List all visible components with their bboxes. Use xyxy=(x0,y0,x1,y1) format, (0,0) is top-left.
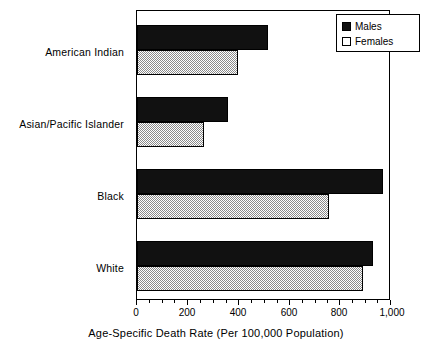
bars-layer xyxy=(137,11,389,299)
xtick-minor-750 xyxy=(327,300,328,303)
xtick-mark-200 xyxy=(187,300,188,305)
legend-item-males: Males xyxy=(342,19,414,34)
legend-label-males: Males xyxy=(355,21,382,32)
xtick-label-200: 200 xyxy=(179,307,196,318)
xtick-label-0: 0 xyxy=(133,307,139,318)
xtick-mark-800 xyxy=(339,300,340,305)
xtick-label-600: 600 xyxy=(281,307,298,318)
bar-females-american-indian xyxy=(137,50,238,75)
bar-females-asian-pacific-islander xyxy=(137,122,204,147)
legend-swatch-males-icon xyxy=(342,22,351,31)
xtick-minor-500 xyxy=(264,300,265,303)
xtick-minor-50 xyxy=(149,300,150,303)
category-label-asian-pacific-islander: Asian/Pacific Islander xyxy=(0,119,124,130)
xtick-mark-1000 xyxy=(390,300,391,305)
bar-females-black xyxy=(137,194,329,219)
bar-males-black xyxy=(137,169,383,194)
xtick-minor-300 xyxy=(213,300,214,303)
category-label-american-indian: American Indian xyxy=(0,47,124,58)
xtick-minor-250 xyxy=(200,300,201,303)
xtick-minor-700 xyxy=(315,300,316,303)
xtick-minor-350 xyxy=(226,300,227,303)
xtick-minor-900 xyxy=(365,300,366,303)
legend-label-females: Females xyxy=(355,36,393,47)
bar-females-white xyxy=(137,266,363,291)
x-axis-title: Age-Specific Death Rate (Per 100,000 Pop… xyxy=(0,327,432,340)
xtick-minor-550 xyxy=(277,300,278,303)
xtick-minor-450 xyxy=(251,300,252,303)
xtick-mark-400 xyxy=(238,300,239,305)
xtick-minor-950 xyxy=(377,300,378,303)
xtick-label-1000: 1,000 xyxy=(379,307,404,318)
xtick-minor-850 xyxy=(352,300,353,303)
xtick-minor-100 xyxy=(162,300,163,303)
bar-males-white xyxy=(137,241,373,266)
legend: Males Females xyxy=(336,14,420,52)
xtick-label-400: 400 xyxy=(230,307,247,318)
bar-males-american-indian xyxy=(137,25,268,50)
bar-chart: American Indian Asian/Pacific Islander B… xyxy=(0,0,432,349)
category-label-white: White xyxy=(0,263,124,274)
xtick-mark-600 xyxy=(289,300,290,305)
legend-item-females: Females xyxy=(342,34,414,49)
xtick-label-800: 800 xyxy=(331,307,348,318)
bar-males-asian-pacific-islander xyxy=(137,97,228,122)
xtick-mark-0 xyxy=(136,300,137,305)
category-axis-labels: American Indian Asian/Pacific Islander B… xyxy=(0,10,130,300)
legend-swatch-females-icon xyxy=(342,37,351,46)
xtick-minor-650 xyxy=(302,300,303,303)
category-label-black: Black xyxy=(0,191,124,202)
xtick-minor-150 xyxy=(174,300,175,303)
